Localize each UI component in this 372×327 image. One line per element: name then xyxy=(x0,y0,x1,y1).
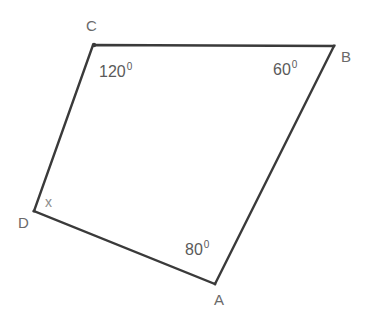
vertex-label-d: D xyxy=(18,215,29,230)
vertex-dot-A xyxy=(214,283,217,286)
vertex-label-a: A xyxy=(214,292,225,307)
quadrilateral-outline xyxy=(34,45,334,284)
angle-value-a: 80 xyxy=(185,241,203,258)
angle-unknown-d: x xyxy=(45,195,52,209)
degree-symbol-b: 0 xyxy=(292,59,298,70)
angle-measure-a: 800 xyxy=(185,241,208,258)
angle-value-b: 60 xyxy=(273,61,291,78)
vertex-label-c: C xyxy=(86,18,97,33)
degree-symbol-a: 0 xyxy=(204,239,210,250)
degree-symbol-c: 0 xyxy=(127,61,133,72)
vertex-label-b: B xyxy=(341,49,352,64)
quadrilateral-diagram xyxy=(0,0,372,327)
vertex-dot-D xyxy=(32,209,35,212)
vertex-dot-B xyxy=(333,45,336,48)
angle-value-c: 120 xyxy=(99,63,126,80)
vertex-dot-C xyxy=(92,43,96,47)
angle-measure-b: 600 xyxy=(273,61,296,78)
geometry-figure: C B A D 1200 600 800 x xyxy=(0,0,372,327)
angle-measure-c: 1200 xyxy=(99,63,131,80)
